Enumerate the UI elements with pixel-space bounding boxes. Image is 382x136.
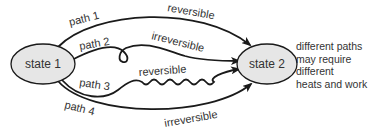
path-2-label: path 2	[78, 35, 110, 52]
note-line: may require	[296, 53, 367, 66]
note-line: different	[296, 65, 367, 78]
state-1-node: state 1	[11, 44, 75, 84]
explanation-note: different paths may require different he…	[296, 40, 367, 90]
note-line: heats and work	[296, 78, 367, 91]
note-line: different paths	[296, 40, 367, 53]
path-2-type-label: irreversible	[151, 29, 206, 54]
path-3-label: path 3	[79, 76, 111, 92]
path-3-type-label: reversible	[138, 63, 186, 78]
path-4-type-label: irreversible	[163, 108, 218, 129]
state-2-label: state 2	[249, 57, 285, 71]
state-2-node: state 2	[237, 44, 297, 84]
state-1-label: state 1	[25, 57, 61, 71]
